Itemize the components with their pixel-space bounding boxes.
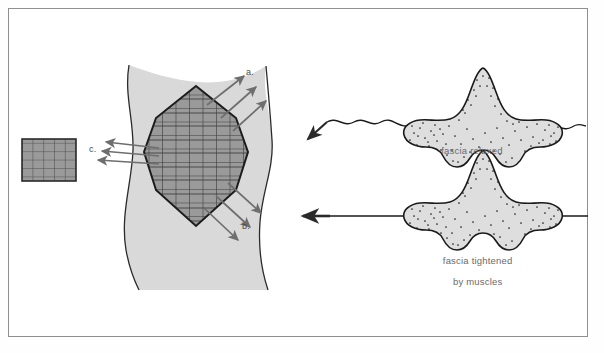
relaxed-arrow [308,122,327,139]
figure-canvas [0,0,604,353]
caption-tightened-line-1: fascia tightened [443,255,513,266]
marker-label-a: a. [246,68,254,78]
small-lattice-swatch [22,139,76,181]
caption-tightened-line-2: by muscles [453,276,503,287]
caption-fascia-tightened: fascia tightened by muscles [410,246,534,297]
figure-root: a. b. c. fascia relaxed fascia tightened… [0,0,604,353]
caption-fascia-relaxed: fascia relaxed [412,146,532,156]
marker-label-b: b. [242,222,250,232]
fascia-tightened-diagram [303,151,588,250]
marker-label-c: c. [89,145,97,155]
